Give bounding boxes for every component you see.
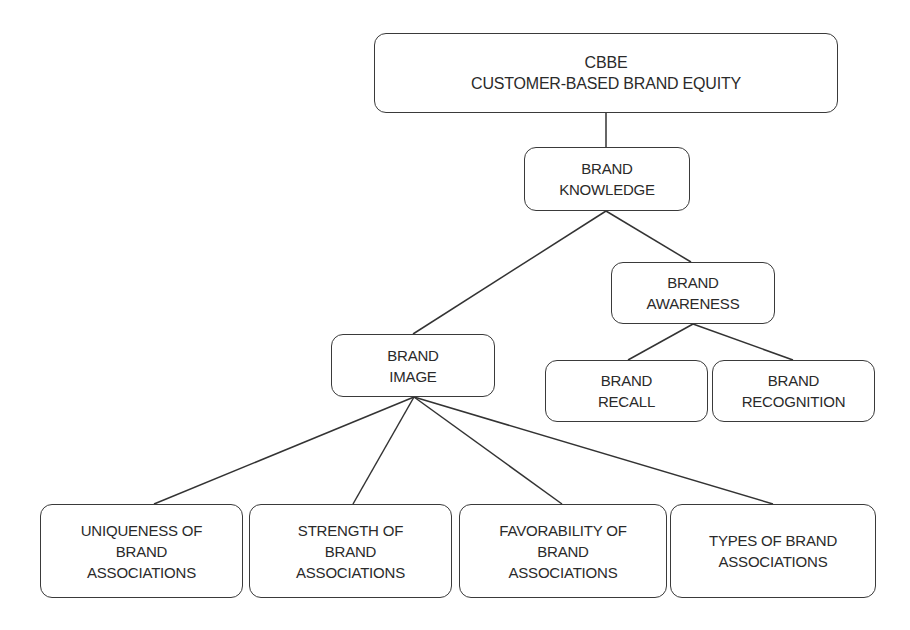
edge-image-uniqueness <box>154 397 414 504</box>
node-label-line: BRAND <box>647 272 740 293</box>
node-label-line: BRAND <box>559 158 655 179</box>
node-label-line: KNOWLEDGE <box>559 179 655 200</box>
node-label-line: FAVORABILITY OF <box>499 520 626 541</box>
node-label-line: BRAND <box>598 370 655 391</box>
node-brand-knowledge: BRAND KNOWLEDGE <box>524 147 690 211</box>
node-label-line: AWARENESS <box>647 293 740 314</box>
node-label-line: IMAGE <box>387 366 439 387</box>
node-label-line: ASSOCIATIONS <box>296 562 405 583</box>
edge-knowledge-awareness <box>606 211 691 262</box>
node-strength-of-brand-associations: STRENGTH OF BRAND ASSOCIATIONS <box>249 504 452 598</box>
edge-knowledge-image <box>413 211 606 334</box>
node-label-line: CBBE <box>471 52 741 73</box>
node-brand-recall: BRAND RECALL <box>545 360 708 422</box>
node-brand-recognition: BRAND RECOGNITION <box>712 360 875 422</box>
node-label-line: RECOGNITION <box>742 391 846 412</box>
node-label-line: CUSTOMER-BASED BRAND EQUITY <box>471 73 741 94</box>
edge-awareness-recognition <box>693 324 793 360</box>
node-label-line: BRAND <box>296 541 405 562</box>
node-label-line: ASSOCIATIONS <box>709 551 837 572</box>
node-label-line: STRENGTH OF <box>296 520 405 541</box>
edge-image-favorability <box>414 397 562 504</box>
node-label-line: ASSOCIATIONS <box>81 562 203 583</box>
node-favorability-of-brand-associations: FAVORABILITY OF BRAND ASSOCIATIONS <box>459 504 667 598</box>
node-label-line: UNIQUENESS OF <box>81 520 203 541</box>
edge-awareness-recall <box>628 324 693 360</box>
node-brand-image: BRAND IMAGE <box>331 334 495 397</box>
node-cbbe: CBBE CUSTOMER-BASED BRAND EQUITY <box>374 33 838 113</box>
node-brand-awareness: BRAND AWARENESS <box>611 262 775 324</box>
node-types-of-brand-associations: TYPES OF BRAND ASSOCIATIONS <box>670 504 876 598</box>
node-label-line: BRAND <box>499 541 626 562</box>
node-uniqueness-of-brand-associations: UNIQUENESS OF BRAND ASSOCIATIONS <box>40 504 243 598</box>
node-label-line: BRAND <box>81 541 203 562</box>
edge-image-strength <box>353 397 414 504</box>
node-label-line: BRAND <box>742 370 846 391</box>
node-label-line: RECALL <box>598 391 655 412</box>
node-label-line: ASSOCIATIONS <box>499 562 626 583</box>
node-label-line: BRAND <box>387 345 439 366</box>
node-label-line: TYPES OF BRAND <box>709 530 837 551</box>
